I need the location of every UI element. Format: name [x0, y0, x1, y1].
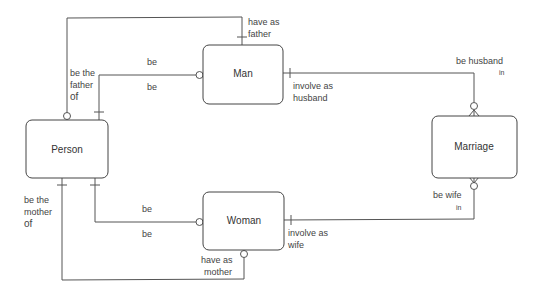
label-person-man-above: be [147, 57, 157, 67]
label-be-the-mother-1: be the [24, 195, 49, 205]
label-be-the-mother-2: mother [24, 207, 52, 217]
label-be-the-father-1: be the [70, 68, 95, 78]
woman-optional-circle [196, 219, 203, 226]
entity-woman[interactable]: Woman [203, 192, 284, 250]
label-have-as-mother-1: have as [201, 255, 233, 265]
father-optional-circle [64, 113, 71, 120]
label-be-the-father-2: father [70, 80, 93, 90]
entity-marriage[interactable]: Marriage [432, 116, 517, 178]
label-involve-as-wife-2: wife [287, 240, 304, 250]
label-be-wife-in-1: be wife [433, 190, 462, 200]
entity-person[interactable]: Person [26, 120, 108, 178]
label-person-woman-below: be [142, 229, 152, 239]
marriage-husband-circle [471, 103, 478, 110]
entity-woman-label: Woman [227, 215, 261, 226]
person-woman-line [95, 178, 196, 222]
label-be-the-father-3: of [70, 91, 79, 102]
label-involve-as-wife-1: involve as [288, 228, 329, 238]
label-person-man-below: be [147, 82, 157, 92]
marriage-husband-crowsfoot [469, 110, 479, 116]
label-person-woman-above: be [142, 204, 152, 214]
entity-marriage-label: Marriage [454, 141, 494, 152]
label-be-husband-in-1: be husband [456, 56, 503, 66]
entity-man-label: Man [233, 68, 252, 79]
mother-optional-circle [241, 251, 248, 258]
label-be-the-mother-3: of [24, 218, 33, 229]
label-have-as-mother-2: mother [204, 267, 232, 277]
entity-person-label: Person [51, 144, 83, 155]
label-involve-as-husband-1: involve as [293, 81, 334, 91]
label-have-as-father-2: father [248, 29, 271, 39]
label-have-as-father-1: have as [248, 17, 280, 27]
er-diagram: Man Person Woman Marriage have as father… [0, 0, 543, 298]
entity-man[interactable]: Man [203, 45, 283, 104]
label-involve-as-husband-2: husband [293, 93, 328, 103]
label-be-husband-in-2: in [499, 69, 505, 76]
man-optional-circle [196, 72, 203, 79]
label-be-wife-in-2: in [456, 204, 462, 211]
